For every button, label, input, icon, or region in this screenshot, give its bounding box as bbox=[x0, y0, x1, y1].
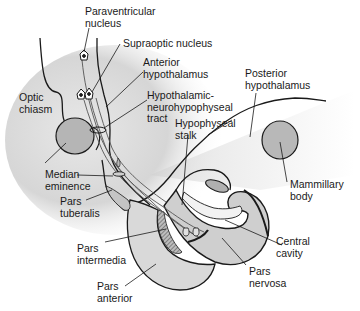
label-pars-nervosa: Pars nervosa bbox=[249, 266, 286, 289]
label-pars-intermedia: Pars intermedia bbox=[77, 243, 126, 266]
hypothalamus-pituitary-diagram: Paraventricular nucleus Supraoptic nucle… bbox=[0, 0, 360, 311]
label-central-cavity: Central cavity bbox=[276, 236, 310, 259]
label-hypophyseal-stalk: Hypophyseal stalk bbox=[175, 118, 236, 141]
label-anterior-hypothalamus: Anterior hypothalamus bbox=[143, 57, 208, 80]
mammillary-body-structure bbox=[262, 121, 298, 159]
label-paraventricular-nucleus: Paraventricular nucleus bbox=[85, 6, 156, 29]
label-supraoptic-nucleus: Supraoptic nucleus bbox=[123, 38, 212, 50]
label-pars-anterior: Pars anterior bbox=[97, 281, 133, 304]
label-pars-tuberalis: Pars tuberalis bbox=[60, 196, 100, 219]
label-optic-chiasm: Optic chiasm bbox=[19, 92, 52, 115]
label-posterior-hypothalamus: Posterior hypothalamus bbox=[245, 68, 310, 91]
label-median-eminence: Median eminence bbox=[45, 169, 91, 192]
label-mammillary-body: Mammillary body bbox=[290, 179, 344, 202]
